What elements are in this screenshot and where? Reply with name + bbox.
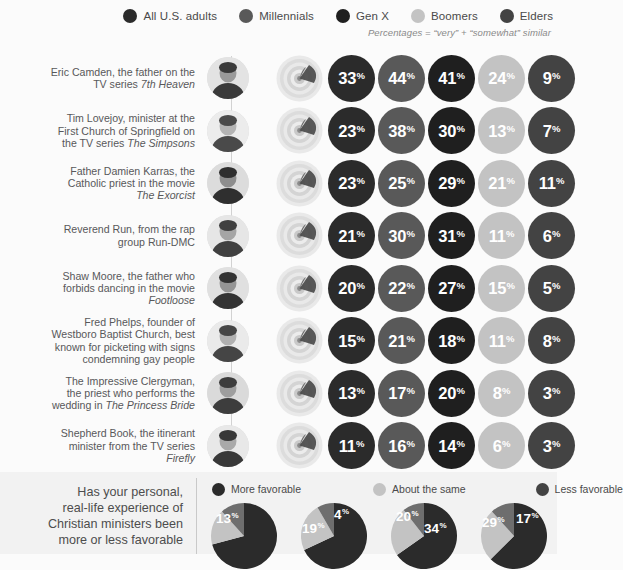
percent-sign: %	[552, 124, 560, 134]
row-label-line: group Run-DMC	[0, 236, 195, 248]
row-cells: 11%16%14%6%3%	[276, 422, 578, 469]
target-icon	[276, 55, 323, 102]
percent-sign: %	[407, 386, 415, 396]
bottom-legend-label: More favorable	[231, 483, 301, 495]
table-row: Shepherd Book, the itinerantminister fro…	[0, 420, 557, 473]
pie-slot-3: 20%34%	[376, 500, 466, 554]
row-label-line: condemning gay people	[0, 353, 195, 365]
data-bubble-value: 13%	[338, 385, 364, 402]
data-bubble: 11%	[478, 317, 525, 364]
legend-item-label: Elders	[520, 10, 553, 22]
row-label-title: The Simpsons	[127, 137, 195, 149]
percent-sign: %	[357, 229, 365, 239]
row-label-line: Eric Camden, the father on the	[0, 66, 195, 78]
data-bubble-value: 38%	[388, 123, 414, 140]
pie-slice-label: 13%	[216, 512, 239, 526]
portrait-impressive-clergyman	[207, 372, 249, 414]
row-label-line: known for picketing with signs	[0, 341, 195, 353]
row-label-line: Reverend Run, from the rap	[0, 223, 195, 235]
percent-sign: %	[457, 176, 465, 186]
data-bubble: 20%	[328, 265, 375, 312]
percent-sign: %	[506, 334, 514, 344]
data-bubble: 8%	[478, 370, 525, 417]
data-bubble-value: 3%	[543, 438, 561, 455]
target-icon	[276, 317, 323, 364]
data-bubble: 11%	[478, 212, 525, 259]
data-bubble-value: 20%	[338, 280, 364, 297]
bottom-question-line: more or less favorable	[8, 532, 183, 548]
data-bubble-value: 21%	[488, 175, 514, 192]
percent-sign: %	[552, 334, 560, 344]
data-bubble: 15%	[328, 317, 375, 364]
percent-sign: %	[507, 281, 515, 291]
percent-sign: %	[440, 522, 447, 530]
percent-sign: %	[502, 439, 510, 449]
bottom-legend-item-2: Less favorable	[536, 483, 623, 496]
data-rows: Eric Camden, the father on theTV series …	[0, 52, 557, 472]
legend-item-label: Gen X	[356, 10, 389, 22]
row-label-line: Shepherd Book, the itinerant	[0, 427, 195, 439]
pie-slot-2: 19%4%	[286, 500, 376, 554]
percent-sign: %	[232, 512, 239, 520]
data-bubble: 13%	[478, 107, 525, 154]
data-bubble-value: 24%	[488, 70, 514, 87]
bottom-legend-swatch-icon	[536, 483, 549, 496]
percent-sign: %	[407, 176, 415, 186]
data-bubble: 38%	[378, 107, 425, 154]
percent-sign: %	[357, 281, 365, 291]
data-bubble: 24%	[478, 55, 525, 102]
pie-slice-label: 20%	[396, 510, 419, 524]
percent-sign: %	[412, 510, 419, 518]
pie-chart-group: 13%19%4%20%34%29%17%	[196, 500, 557, 554]
data-bubble: 9%	[528, 55, 575, 102]
table-row: Shaw Moore, the father whoforbids dancin…	[0, 262, 557, 315]
legend-item-label: All U.S. adults	[143, 10, 217, 22]
portrait-shepherd-book	[207, 425, 249, 467]
percent-sign: %	[356, 439, 364, 449]
legend-item-label: Boomers	[431, 10, 478, 22]
row-label-line: minister from the TV series	[0, 440, 195, 452]
percent-sign: %	[552, 71, 560, 81]
percent-sign: %	[552, 281, 560, 291]
data-bubble-value: 21%	[338, 228, 364, 245]
data-bubble: 5%	[528, 265, 575, 312]
row-label-title: 7th Heaven	[141, 78, 195, 90]
row-label-line: Father Damien Karras, the	[0, 165, 195, 177]
data-bubble-value: 5%	[543, 280, 561, 297]
data-bubble: 15%	[478, 265, 525, 312]
row-label-line: Fred Phelps, founder of	[0, 316, 195, 328]
data-bubble: 30%	[428, 107, 475, 154]
row-label-line: wedding in The Princess Bride	[0, 399, 195, 411]
target-icon	[276, 265, 323, 312]
portrait-eric-camden	[207, 57, 249, 99]
data-bubble: 44%	[378, 55, 425, 102]
bottom-legend-item-0: More favorable	[212, 483, 301, 496]
target-icon	[276, 107, 323, 154]
portrait-reverend-run	[207, 215, 249, 257]
row-label: Shepherd Book, the itinerantminister fro…	[0, 427, 205, 464]
bottom-legend-label: About the same	[392, 483, 466, 495]
pie-slice-label: 29%	[482, 516, 505, 530]
percent-sign: %	[498, 516, 505, 524]
pie-slot-1: 13%	[196, 500, 286, 554]
percent-sign: %	[357, 334, 365, 344]
row-label-line: Footloose	[0, 294, 195, 306]
percent-sign: %	[407, 281, 415, 291]
data-bubble: 11%	[528, 160, 575, 207]
data-bubble-value: 23%	[338, 175, 364, 192]
legend-swatch-icon	[411, 9, 425, 23]
data-bubble: 17%	[378, 370, 425, 417]
legend-item-label: Millennials	[259, 10, 314, 22]
legend-item-0: All U.S. adults	[123, 9, 217, 23]
data-bubble-value: 29%	[438, 175, 464, 192]
percent-sign: %	[552, 439, 560, 449]
data-bubble: 8%	[528, 317, 575, 364]
target-icon	[276, 212, 323, 259]
percent-sign: %	[457, 71, 465, 81]
row-label: Shaw Moore, the father whoforbids dancin…	[0, 270, 205, 307]
bottom-legend-swatch-icon	[212, 483, 225, 496]
data-bubble-value: 30%	[388, 228, 414, 245]
target-icon	[276, 422, 323, 469]
pie-slot-4: 29%17%	[466, 500, 556, 554]
legend-swatch-icon	[239, 9, 253, 23]
